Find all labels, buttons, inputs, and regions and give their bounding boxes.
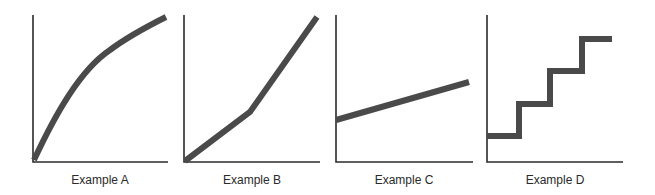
chart-d-caption: Example D — [495, 173, 615, 187]
chart-c — [336, 15, 473, 162]
chart-a-curve — [34, 17, 166, 160]
chart-a — [33, 15, 168, 162]
chart-d — [487, 15, 623, 162]
chart-a-axes — [33, 15, 168, 162]
chart-d-steps — [487, 39, 612, 136]
chart-c-caption: Example C — [344, 173, 464, 187]
chart-b-caption: Example B — [192, 173, 312, 187]
charts-figure — [0, 0, 655, 195]
chart-b — [184, 15, 320, 162]
chart-a-caption: Example A — [40, 173, 160, 187]
chart-b-line — [185, 17, 317, 161]
chart-c-line — [336, 82, 469, 120]
